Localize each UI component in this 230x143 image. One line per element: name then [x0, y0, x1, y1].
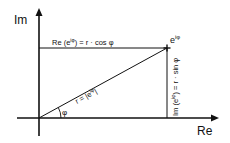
point-marker-icon — [164, 45, 171, 52]
radius-line — [39, 48, 167, 118]
axis-x-label: Re — [197, 124, 213, 138]
im-axis-arrow-icon — [36, 8, 43, 16]
axis-y-label: Im — [14, 13, 27, 27]
imag-part-label: Im (eiφ) = r · sin φ — [170, 58, 180, 116]
angle-label: φ — [62, 108, 67, 117]
re-axis-arrow-icon — [211, 115, 219, 122]
angle-arc — [58, 108, 61, 119]
complex-plane-diagram: Im Re eiφ Re (eiφ) = r · cos φ Im (eiφ) … — [0, 0, 230, 143]
point-label: eiφ — [170, 34, 180, 45]
real-part-label: Re (eiφ) = r · cos φ — [52, 37, 114, 47]
radius-label: r = |eiφ| — [73, 86, 98, 106]
